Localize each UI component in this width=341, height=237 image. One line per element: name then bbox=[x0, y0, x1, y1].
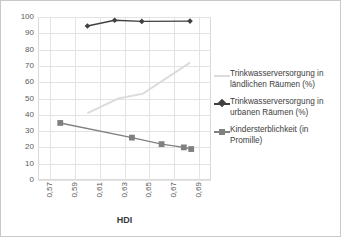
x-axis-tick-label: 0,57 bbox=[46, 182, 54, 198]
data-point-marker bbox=[159, 141, 165, 147]
line-swatch-dark-diamond-icon bbox=[214, 98, 230, 109]
x-axis-title: HDI bbox=[38, 215, 211, 225]
data-point-marker bbox=[85, 23, 91, 29]
y-axis: 0102030405060708090100 bbox=[1, 17, 34, 180]
line-swatch-light-grey-icon bbox=[214, 70, 230, 81]
data-point-marker bbox=[129, 135, 135, 141]
y-axis-tick-label: 50 bbox=[1, 95, 34, 103]
series-0 bbox=[87, 63, 190, 114]
legend-label: Kindersterblichkeit (in Promille) bbox=[230, 125, 340, 146]
series-2 bbox=[57, 120, 194, 152]
y-axis-tick-label: 90 bbox=[1, 29, 34, 37]
series-layer bbox=[38, 17, 211, 180]
data-point-marker bbox=[188, 146, 194, 152]
x-axis-tick-label: 0,61 bbox=[96, 182, 104, 198]
y-axis-tick-label: 60 bbox=[1, 78, 34, 86]
y-axis-tick-label: 80 bbox=[1, 46, 34, 54]
y-axis-tick-label: 10 bbox=[1, 160, 34, 168]
data-point-marker bbox=[139, 19, 145, 25]
y-axis-tick-label: 100 bbox=[1, 13, 34, 21]
series-1 bbox=[85, 17, 193, 28]
legend-entry[interactable]: Kindersterblichkeit (in Promille) bbox=[214, 125, 340, 146]
chart-figure: 0102030405060708090100 0,570,590,610,630… bbox=[0, 0, 341, 237]
x-axis-tick-label: 0,69 bbox=[195, 182, 203, 198]
series-line bbox=[60, 123, 191, 149]
x-axis-tick-label: 0,65 bbox=[145, 182, 153, 198]
chart-legend: Trinkwasserversorgung in ländlichen Räum… bbox=[214, 69, 340, 153]
legend-entry[interactable]: Trinkwasserversorgung in ländlichen Räum… bbox=[214, 69, 340, 90]
y-axis-tick-label: 20 bbox=[1, 143, 34, 151]
series-line bbox=[87, 63, 190, 114]
legend-label: Trinkwasserversorgung in urbanen Räumen … bbox=[230, 97, 340, 118]
y-axis-tick-label: 40 bbox=[1, 111, 34, 119]
data-point-marker bbox=[57, 120, 63, 126]
line-swatch-grey-square-icon bbox=[214, 126, 230, 137]
x-axis-tick-label: 0,67 bbox=[170, 182, 178, 198]
x-axis-tick-label: 0,59 bbox=[71, 182, 79, 198]
x-axis: 0,570,590,610,630,650,670,69 bbox=[38, 182, 211, 216]
y-axis-tick-label: 30 bbox=[1, 127, 34, 135]
data-point-marker bbox=[112, 17, 118, 23]
data-point-marker bbox=[187, 18, 193, 24]
legend-label: Trinkwasserversorgung in ländlichen Räum… bbox=[230, 69, 340, 90]
series-line bbox=[87, 20, 190, 26]
y-axis-tick-label: 0 bbox=[1, 176, 34, 184]
x-axis-tick-label: 0,63 bbox=[121, 182, 129, 198]
plot-area bbox=[38, 17, 211, 180]
data-point-marker bbox=[181, 145, 187, 151]
legend-entry[interactable]: Trinkwasserversorgung in urbanen Räumen … bbox=[214, 97, 340, 118]
y-axis-tick-label: 70 bbox=[1, 62, 34, 70]
